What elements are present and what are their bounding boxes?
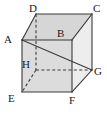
vertex-label-g: G <box>94 66 102 77</box>
vertex-label-f: F <box>69 95 75 106</box>
cube-figure: ABCDEFGH <box>0 0 107 114</box>
vertex-label-h: H <box>22 59 30 70</box>
vertex-label-a: A <box>4 34 12 45</box>
cube-faces <box>22 14 92 92</box>
vertex-label-e: E <box>8 93 15 104</box>
vertex-label-c: C <box>93 3 100 14</box>
cube-drawing <box>0 0 107 114</box>
vertex-label-d: D <box>29 3 37 14</box>
vertex-label-b: B <box>57 28 64 39</box>
